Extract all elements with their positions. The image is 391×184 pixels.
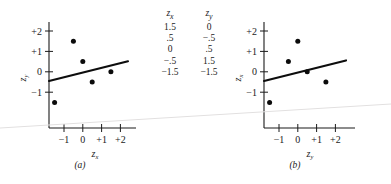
data-point xyxy=(52,100,57,105)
header-zy-sub: y xyxy=(209,12,213,21)
cell-zx: −1.5 xyxy=(152,67,188,78)
data-point xyxy=(267,100,272,105)
data-point xyxy=(295,39,300,44)
panel-a-xtick-label-3: +2 xyxy=(115,134,126,145)
panel-a-xtick-label-1: 0 xyxy=(80,134,85,145)
scatter-panel-b: +2 +1 0 −1 −1 0 +1 +2 xyxy=(215,0,375,184)
header-zx-sub: x xyxy=(170,12,174,21)
panel-b-ylabel-sub: x xyxy=(237,74,244,78)
cell-zx: 0 xyxy=(152,44,188,55)
panel-b-ytick-label-1: +1 xyxy=(246,46,257,57)
panel-b-xlabel-sub: y xyxy=(310,153,314,160)
table-header-zx: zx xyxy=(152,8,188,22)
cell-zx: 1.5 xyxy=(152,22,188,33)
panel-a-ytick-label-1: +1 xyxy=(31,46,42,57)
scatter-panel-a: +2 +1 0 −1 −1 0 +1 +2 xyxy=(0,0,160,184)
panel-a-xlabel-sub: x xyxy=(95,153,99,160)
panel-a-ytick-label-0: +2 xyxy=(31,26,42,37)
data-point xyxy=(323,80,328,85)
data-point xyxy=(90,80,95,85)
panel-a-xtick-label-2: +1 xyxy=(96,134,107,145)
panel-b-plot: +2 +1 0 −1 −1 0 +1 +2 xyxy=(215,0,391,160)
panel-a-caption: (a) xyxy=(0,160,160,170)
panel-b-xtick-label-2: +1 xyxy=(311,134,322,145)
panel-a-plot: +2 +1 0 −1 −1 0 +1 +2 xyxy=(0,0,160,160)
panel-a-regression-line xyxy=(49,61,128,81)
cell-zx: −.5 xyxy=(152,56,188,67)
panel-b-ytick-label-2: 0 xyxy=(252,66,257,77)
panel-b-ytick-label-0: +2 xyxy=(246,26,257,37)
panel-a-ylabel-sub: y xyxy=(22,74,29,78)
panel-b-xtick-label-0: −1 xyxy=(274,134,285,145)
panel-b-caption: (b) xyxy=(215,160,375,170)
panel-b-x-axis-title: zy xyxy=(306,148,314,160)
panel-a-y-axis-title: zy xyxy=(17,74,29,82)
panel-b-xtick-label-3: +2 xyxy=(330,134,341,145)
panel-a-ytick-label-3: −1 xyxy=(31,87,42,98)
data-point xyxy=(80,59,85,64)
data-point xyxy=(305,69,310,74)
data-point xyxy=(71,39,76,44)
data-point xyxy=(108,69,113,74)
panel-b-xtick-label-1: 0 xyxy=(295,134,300,145)
panel-a-ytick-label-2: 0 xyxy=(37,66,42,77)
panel-a-x-axis-title: zx xyxy=(91,148,99,160)
svg-text:zx: zx xyxy=(232,74,244,82)
panel-a-xtick-label-0: −1 xyxy=(59,134,70,145)
figure-container: +2 +1 0 −1 −1 0 +1 +2 xyxy=(0,0,391,184)
cell-zx: .5 xyxy=(152,33,188,44)
panel-b-ytick-label-3: −1 xyxy=(246,87,257,98)
data-point xyxy=(286,59,291,64)
svg-text:zy: zy xyxy=(17,74,29,82)
panel-b-y-axis-title: zx xyxy=(232,74,244,82)
